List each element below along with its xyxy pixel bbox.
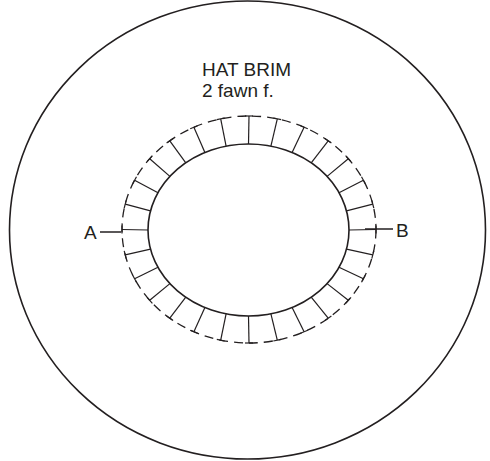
tab-line: [327, 159, 348, 177]
tab-line: [221, 119, 226, 146]
tab-line: [339, 180, 363, 192]
tab-line: [170, 141, 186, 163]
tab-cap: [325, 316, 332, 321]
pattern-title: HAT BRIM: [202, 59, 291, 80]
tab-line: [170, 297, 186, 318]
tab-cut-lines: [122, 116, 376, 343]
tab-line: [327, 284, 348, 301]
tab-line: [249, 316, 250, 343]
tab-line: [125, 204, 150, 211]
tab-line: [125, 249, 150, 255]
marker-b-label: B: [396, 220, 409, 241]
tab-cap: [362, 275, 366, 282]
tab-cap: [325, 138, 332, 143]
tab-cap: [273, 339, 281, 341]
tab-line: [292, 308, 304, 332]
tab-cap: [167, 138, 174, 143]
tab-line: [221, 314, 226, 340]
tab-line: [249, 116, 250, 144]
seam-allowance-dashed-line: [122, 116, 376, 343]
tab-line: [150, 159, 170, 177]
tab-cap: [167, 316, 174, 321]
hat-brim-pattern: A B HAT BRIM 2 fawn f.: [0, 0, 490, 461]
tab-line: [122, 230, 148, 231]
tab-line: [194, 308, 205, 332]
tab-line: [311, 141, 328, 163]
tab-line: [311, 297, 328, 318]
tab-cap: [133, 177, 137, 184]
tab-line: [292, 127, 304, 152]
tab-line: [347, 249, 373, 255]
tab-line: [339, 267, 363, 278]
marker-a: A: [84, 222, 121, 243]
tab-cap: [217, 339, 225, 341]
tab-cap: [362, 177, 366, 184]
pattern-subtitle: 2 fawn f.: [202, 80, 274, 101]
tab-line: [135, 180, 158, 192]
tab-line: [135, 267, 158, 278]
tab-line: [347, 204, 373, 211]
marker-a-label: A: [84, 222, 97, 243]
tab-line: [271, 314, 277, 340]
tab-cap: [273, 118, 281, 120]
tab-line: [150, 284, 170, 301]
tab-cap: [133, 275, 137, 282]
tab-cap: [217, 118, 225, 120]
tab-line: [271, 119, 277, 146]
inner-opening-edge: [148, 144, 349, 316]
marker-b: B: [365, 220, 409, 241]
tab-line: [194, 127, 205, 152]
